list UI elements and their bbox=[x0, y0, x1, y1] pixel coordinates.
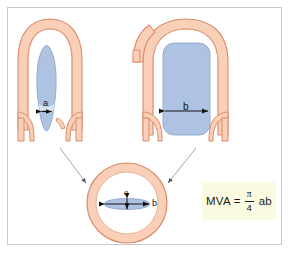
left-valve-leaflet bbox=[37, 46, 56, 132]
label-a-cross-section: a bbox=[124, 188, 128, 197]
formula-equals: = bbox=[234, 195, 241, 207]
formula-box: MVA = π 4 ab bbox=[202, 182, 276, 220]
formula-fraction: π 4 bbox=[245, 190, 254, 212]
formula-numerator: π bbox=[246, 190, 253, 201]
connector-right bbox=[168, 148, 196, 183]
connector-left bbox=[60, 148, 86, 183]
right-view-panel bbox=[133, 19, 228, 141]
right-trunk-left bbox=[143, 118, 149, 141]
figure-root: a b a b MVA = π 4 ab bbox=[0, 0, 291, 260]
label-b-cross-section: b bbox=[152, 198, 157, 208]
right-trunk-right bbox=[222, 118, 228, 141]
label-a-left-view: a bbox=[43, 98, 48, 108]
formula-rhs: ab bbox=[259, 195, 272, 207]
formula-denominator: 4 bbox=[245, 202, 252, 213]
mva-formula: MVA = π 4 ab bbox=[206, 190, 272, 212]
left-view-panel bbox=[18, 19, 82, 141]
label-b-right-view: b bbox=[183, 101, 189, 112]
left-trunk-right bbox=[76, 118, 82, 141]
right-valve-leaflet bbox=[163, 43, 210, 135]
right-branch-vessel-tip bbox=[133, 50, 140, 62]
formula-lhs: MVA bbox=[206, 195, 231, 207]
left-central-vessel bbox=[56, 118, 65, 129]
diagram-canvas bbox=[0, 0, 291, 260]
left-trunk-left bbox=[18, 118, 24, 141]
